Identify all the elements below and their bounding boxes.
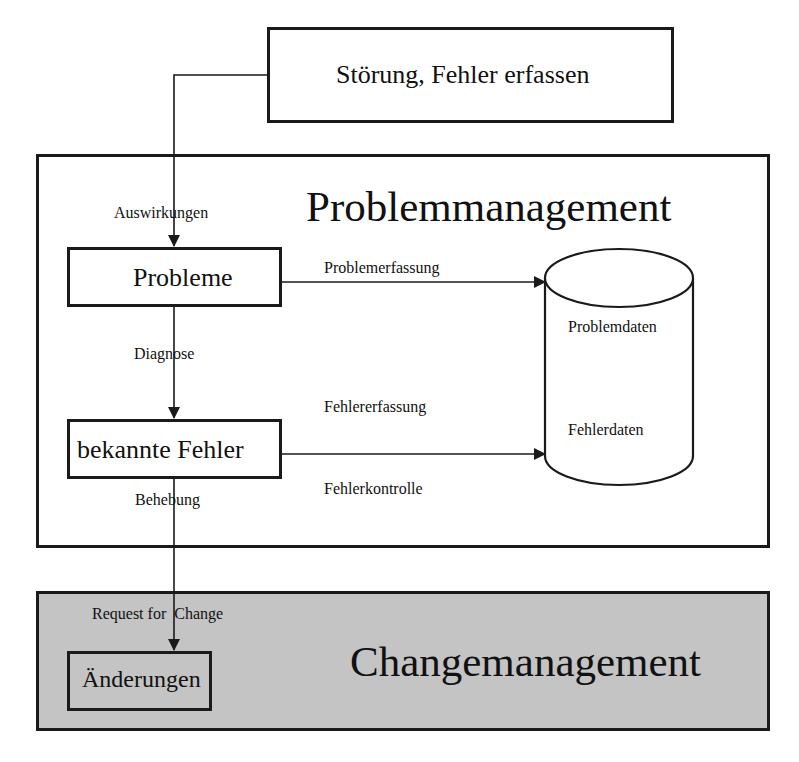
request-for-change-label: Request for Change [92,606,223,622]
fehlerdaten-label: Fehlerdaten [568,422,644,438]
problemdaten-label: Problemdaten [568,319,657,335]
database-cylinder-icon [545,249,693,485]
problemerfassung-label: Problemerfassung [324,260,440,276]
bekannte-fehler-label: bekannte Fehler [77,437,244,463]
auswirkungen-label: Auswirkungen [114,205,208,221]
behebung-label: Behebung [135,492,200,508]
fehlererfassung-label: Fehlererfassung [324,399,426,415]
aenderungen-label: Änderungen [82,667,201,691]
changemanagement-title: Changemanagement [350,640,701,683]
problemmanagement-title: Problemmanagement [306,185,671,228]
fehlerkontrolle-label: Fehlerkontrolle [324,481,423,497]
probleme-label: Probleme [133,265,233,291]
diagnose-label: Diagnose [134,346,194,362]
